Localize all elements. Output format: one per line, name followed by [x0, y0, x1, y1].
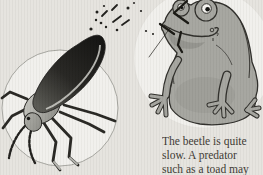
toad-pupil-right: [205, 7, 210, 12]
caption-line-3: such as a toad may: [162, 162, 263, 175]
caption-line-2: slow. A predator: [162, 148, 263, 162]
spray-droplets: [89, 2, 147, 32]
caption-line-1: The beetle is quite: [162, 134, 263, 148]
caption: The beetle is quite slow. A predator suc…: [162, 134, 263, 175]
book-page: The beetle is quite slow. A predator suc…: [0, 0, 263, 175]
captured-beetle-speck: [152, 33, 154, 35]
beetle-eye: [27, 117, 30, 120]
